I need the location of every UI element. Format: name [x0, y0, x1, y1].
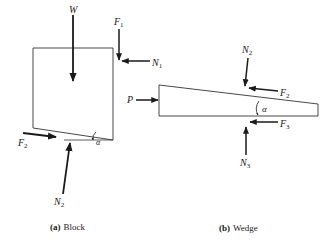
friction-f1-label: F1 [113, 16, 124, 29]
friction-f3-label: F3 [279, 118, 290, 131]
push-p-label: P [126, 94, 133, 105]
normal-n1-label: N1 [151, 57, 163, 70]
wedge-outline [159, 85, 318, 116]
weight-label: W [69, 4, 79, 15]
normal-n2-wedge-label: N2 [241, 44, 253, 57]
wedge-angle-arc [256, 101, 259, 115]
friction-f2-arrow [23, 133, 56, 137]
friction-f2-label: F2 [17, 137, 28, 150]
wedge-diagram: P N2 F2 α F3 N3 (b)Wedge [126, 44, 318, 233]
wedge-angle-alpha-label: α [262, 104, 267, 114]
friction-f2-wedge-arrow [249, 88, 278, 91]
free-body-diagrams: W F1 N1 F2 N2 α (a)Block P N2 F2 α [0, 0, 335, 247]
wedge-caption: (b)Wedge [219, 223, 258, 233]
block-diagram: W F1 N1 F2 N2 α (a)Block [17, 4, 163, 232]
angle-alpha-label: α [96, 138, 101, 147]
normal-n2-arrow [63, 143, 70, 194]
block-caption: (a)Block [50, 222, 85, 232]
friction-f2-wedge-label: F2 [279, 87, 290, 100]
normal-n2-wedge-arrow [245, 58, 248, 86]
normal-n2-label: N2 [53, 196, 65, 209]
normal-n3-label: N3 [239, 157, 251, 170]
